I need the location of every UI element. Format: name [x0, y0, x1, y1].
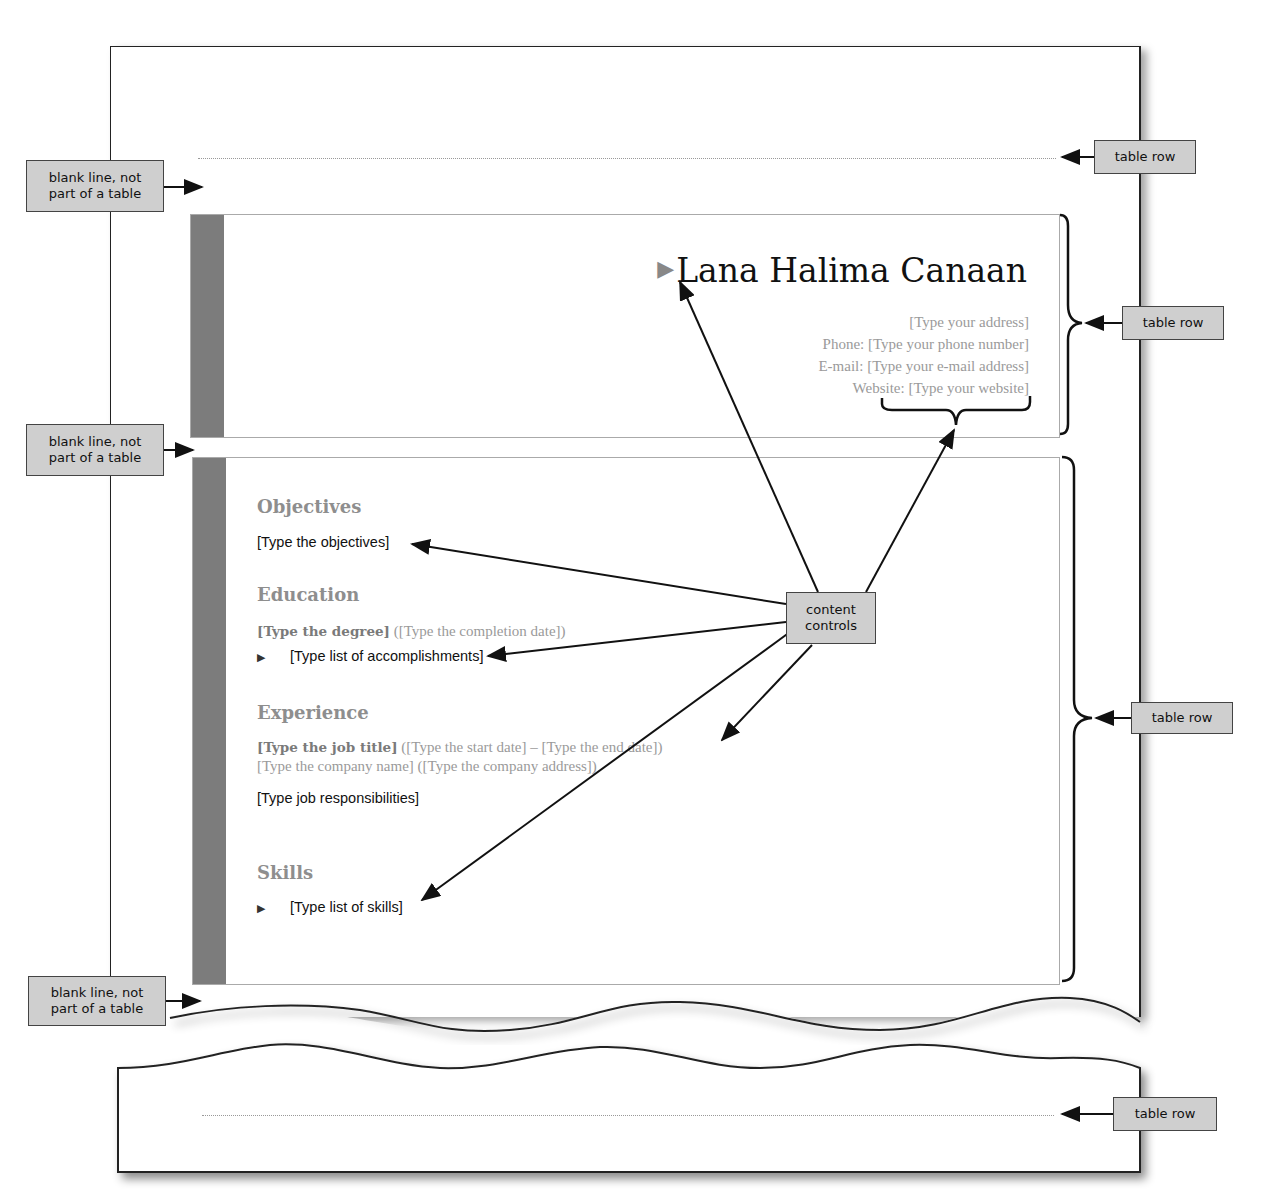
- callout-table-row-1: table row: [1094, 140, 1196, 174]
- callout-blank-line-2: blank line, not part of a table: [26, 424, 164, 476]
- callout-table-row-3: table row: [1131, 702, 1233, 734]
- callout-blank-line-3: blank line, not part of a table: [28, 976, 166, 1026]
- callout-content-controls: content controls: [786, 592, 876, 644]
- callout-table-row-2: table row: [1122, 306, 1224, 340]
- callout-table-row-4: table row: [1113, 1097, 1217, 1131]
- callout-blank-line-1: blank line, not part of a table: [26, 160, 164, 212]
- annotation-arrows: [0, 0, 1263, 1201]
